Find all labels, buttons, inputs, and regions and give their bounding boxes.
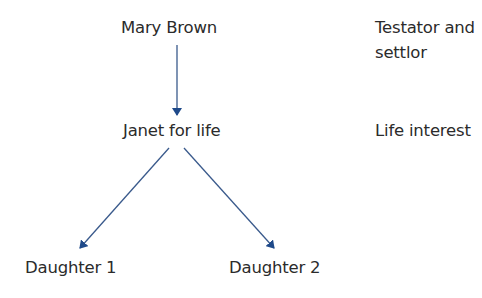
annotation-life-interest: Life interest bbox=[375, 121, 471, 141]
node-daughter2: Daughter 2 bbox=[229, 258, 320, 278]
arrow-life-tenant-to-daughter2 bbox=[184, 148, 274, 248]
annotation-testator-role-line2: settlor bbox=[375, 43, 427, 63]
arrow-life-tenant-to-daughter1 bbox=[80, 148, 169, 248]
annotation-testator-role-line1: Testator and bbox=[375, 18, 475, 38]
node-life-tenant: Janet for life bbox=[123, 121, 221, 141]
node-testator: Mary Brown bbox=[121, 18, 217, 38]
node-daughter1: Daughter 1 bbox=[25, 258, 116, 278]
